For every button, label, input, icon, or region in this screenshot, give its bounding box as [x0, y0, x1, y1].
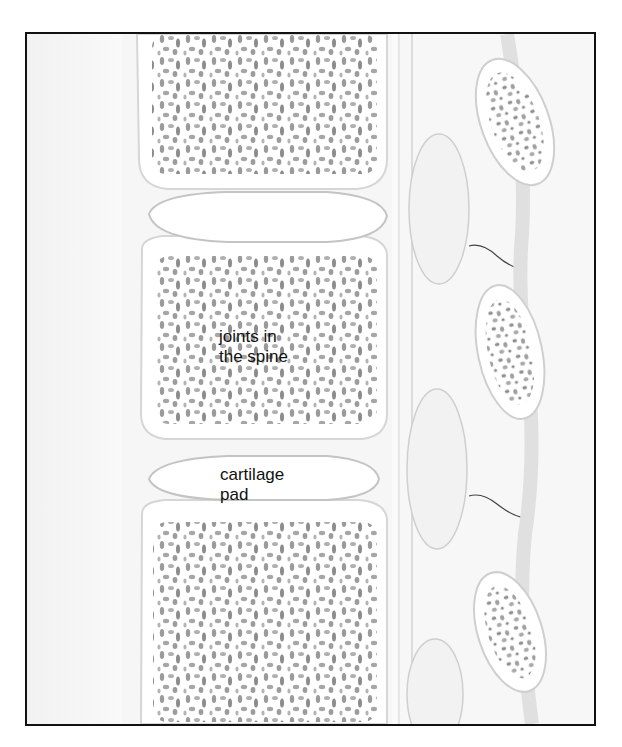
label-cartilage-pad: cartilage pad: [220, 465, 284, 505]
vertebra-top: [137, 34, 387, 189]
vertebra-bottom: [141, 500, 387, 724]
disc-upper: [149, 192, 387, 242]
illustration-frame: joints in the spine cartilage pad: [25, 32, 596, 726]
label-joints-in-the-spine: joints in the spine: [219, 327, 288, 367]
spine-illustration: [27, 34, 594, 724]
